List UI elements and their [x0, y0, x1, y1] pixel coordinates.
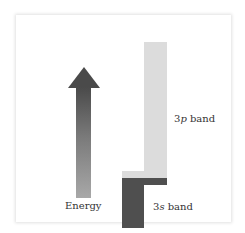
diagram-panel: Energy 3p band 3s band: [16, 15, 231, 222]
band-3s-column: [122, 185, 144, 228]
energy-arrow-shaft: [76, 87, 91, 198]
band-3p-label: 3p band: [174, 113, 215, 125]
energy-arrow-head-icon: [68, 67, 100, 88]
band-3p-column: [144, 42, 167, 178]
band-3p-overlap-foot: [122, 171, 144, 178]
band-3p-label-suffix: band: [187, 113, 215, 124]
band-3s-label-suffix: band: [165, 201, 193, 212]
band-3s-top-bar: [122, 178, 167, 185]
band-3s-label: 3s band: [153, 201, 193, 213]
energy-label: Energy: [65, 200, 102, 212]
